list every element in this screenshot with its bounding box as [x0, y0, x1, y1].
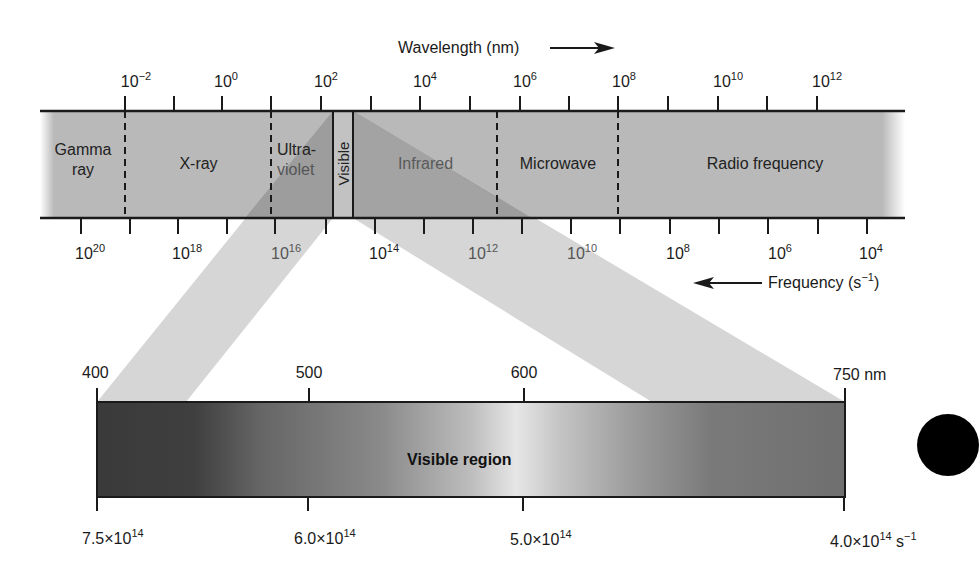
visible-frequency-tick-label: 7.5×1014: [82, 530, 144, 548]
wavelength-axis-label: Wavelength (nm): [398, 39, 519, 57]
region-visible: Visible: [335, 133, 352, 195]
visible-region-bar: [97, 388, 845, 511]
frequency-tick-label: 1016: [271, 245, 301, 263]
frequency-arrow: [693, 277, 762, 289]
region-radio-frequency: Radio frequency: [620, 154, 910, 174]
region-gamma-ray: Gammaray: [42, 140, 124, 180]
frequency-tick-label: 1014: [369, 245, 399, 263]
visible-wavelength-tick-label: 500: [296, 364, 323, 382]
wavelength-tick-label: 108: [612, 73, 636, 91]
frequency-tick-label: 1010: [567, 245, 597, 263]
region-x-ray: X-ray: [126, 154, 271, 174]
wavelength-tick-label: 1010: [713, 73, 743, 91]
wavelength-tick-label: 1012: [812, 73, 842, 91]
visible-frequency-tick-label: 4.0×1014 s−1: [830, 533, 917, 551]
wavelength-tick-label: 102: [314, 73, 338, 91]
region-infrared: Infrared: [354, 154, 497, 174]
frequency-axis-label: Frequency (s−1): [768, 274, 879, 292]
visible-wavelength-tick-label: 750 nm: [833, 366, 886, 384]
frequency-tick-label: 1012: [468, 245, 498, 263]
frequency-ticks: [81, 218, 867, 234]
wavelength-tick-label: 100: [214, 73, 238, 91]
frequency-tick-label: 106: [768, 245, 792, 263]
visible-region-title: Visible region: [407, 451, 512, 469]
wavelength-tick-label: 104: [413, 73, 437, 91]
visible-wavelength-tick-label: 400: [82, 364, 109, 382]
wavelength-tick-label: 106: [513, 73, 537, 91]
frequency-tick-label: 1020: [75, 245, 105, 263]
visible-frequency-tick-label: 6.0×1014: [294, 530, 356, 548]
wavelength-arrow: [550, 42, 615, 54]
margin-dot-marker: [917, 414, 979, 476]
frequency-tick-label: 108: [666, 245, 690, 263]
visible-wavelength-tick-label: 600: [511, 364, 538, 382]
wavelength-ticks: [125, 96, 817, 111]
frequency-tick-label: 1018: [172, 245, 202, 263]
region-microwave: Microwave: [498, 154, 618, 174]
visible-frequency-tick-label: 5.0×1014: [510, 531, 572, 549]
frequency-tick-label: 104: [859, 245, 883, 263]
wavelength-tick-label: 10−2: [121, 73, 151, 91]
region-ultraviolet: Ultra-violet: [272, 140, 332, 180]
